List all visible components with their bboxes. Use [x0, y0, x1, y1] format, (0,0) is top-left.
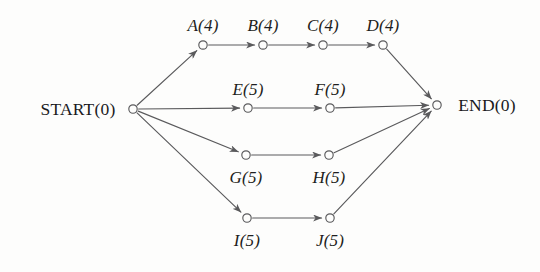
node-d — [379, 41, 387, 49]
node-end — [433, 101, 441, 109]
edge-layer — [137, 45, 431, 218]
node-label-end: END(0) — [458, 95, 516, 116]
node-label-a: A(4) — [187, 16, 218, 36]
edge-start-e — [139, 108, 240, 109]
node-label-h: H(5) — [313, 168, 346, 188]
edge-start-i — [137, 113, 241, 212]
node-c — [319, 41, 327, 49]
node-label-d: D(4) — [367, 16, 400, 36]
node-a — [199, 41, 207, 49]
node-j — [326, 214, 334, 222]
node-layer — [129, 41, 441, 222]
node-h — [325, 151, 333, 159]
edge-start-g — [138, 111, 238, 152]
edge-f-end — [336, 105, 429, 108]
node-start — [129, 105, 137, 113]
node-f — [326, 104, 334, 112]
node-label-c: C(4) — [307, 16, 339, 36]
node-label-b: B(4) — [247, 16, 278, 36]
diagram-canvas: START(0)A(4)B(4)C(4)D(4)E(5)F(5)G(5)H(5)… — [0, 0, 540, 272]
node-label-j: J(5) — [316, 231, 344, 251]
network-graph — [0, 0, 540, 272]
edge-start-a — [137, 51, 197, 106]
node-g — [242, 151, 250, 159]
node-label-i: I(5) — [234, 231, 260, 251]
edge-d-end — [387, 49, 432, 99]
node-b — [259, 41, 267, 49]
node-label-start: START(0) — [41, 99, 116, 120]
node-label-e: E(5) — [232, 80, 263, 100]
node-label-f: F(5) — [314, 80, 345, 100]
edge-j-end — [334, 111, 431, 214]
node-label-g: G(5) — [230, 168, 263, 188]
node-e — [244, 104, 252, 112]
edge-h-end — [334, 109, 429, 153]
node-i — [243, 214, 251, 222]
